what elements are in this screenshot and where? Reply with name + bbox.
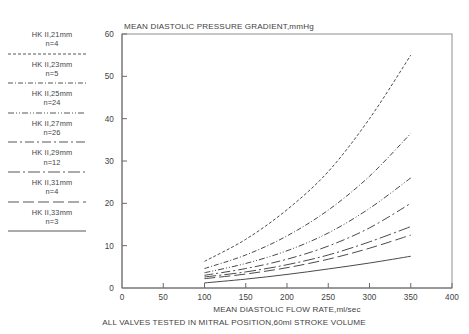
x-axis-tick-label: 400 <box>445 293 459 302</box>
x-axis-tick-label: 350 <box>404 293 418 302</box>
data-curve-23mm <box>205 133 411 268</box>
y-axis-tick-label: 0 <box>109 284 114 293</box>
x-axis-tick-label: 50 <box>159 293 169 302</box>
data-curve-29mm <box>205 227 411 277</box>
x-axis-tick-label: 150 <box>239 293 253 302</box>
chart-caption: ALL VALVES TESTED IN MITRAL POSITION,60m… <box>102 318 366 327</box>
data-curve-21mm <box>205 55 411 261</box>
y-axis-tick-label: 50 <box>105 72 115 81</box>
y-axis-tick-label: 60 <box>105 30 115 39</box>
plot-axes <box>122 34 452 288</box>
y-axis-tick-label: 10 <box>105 242 115 251</box>
plot-frame <box>122 34 452 288</box>
x-axis-tick-label: 100 <box>198 293 212 302</box>
chart-container: 0102030405060050100150200250300350400MEA… <box>0 0 469 334</box>
y-axis-tick-label: 30 <box>105 157 115 166</box>
y-axis-tick-label: 20 <box>105 199 115 208</box>
x-axis-tick-label: 200 <box>280 293 294 302</box>
data-curve-27mm <box>205 203 411 275</box>
x-axis-tick-label: 250 <box>321 293 335 302</box>
x-axis-tick-label: 300 <box>363 293 377 302</box>
chart-svg: 0102030405060050100150200250300350400MEA… <box>0 0 469 334</box>
x-axis-tick-label: 0 <box>120 293 125 302</box>
x-axis-title: MEAN DIASTOLIC FLOW RATE,ml/sec <box>213 305 360 314</box>
y-axis-tick-label: 40 <box>105 115 115 124</box>
chart-title: MEAN DIASTOLIC PRESSURE GRADIENT,mmHg <box>124 22 314 31</box>
